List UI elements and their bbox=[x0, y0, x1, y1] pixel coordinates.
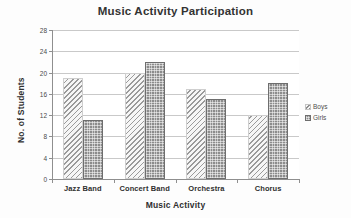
x-category-label: Concert Band bbox=[114, 184, 176, 193]
x-category-label: Orchestra bbox=[176, 184, 238, 193]
x-category-label: Chorus bbox=[237, 184, 299, 193]
x-axis-title: Music Activity bbox=[52, 200, 299, 210]
y-tick-label: 8 bbox=[43, 133, 47, 140]
bar-boys-chorus bbox=[248, 115, 268, 179]
chart-title: Music Activity Participation bbox=[0, 5, 351, 17]
x-tick-mark bbox=[299, 179, 300, 183]
legend-item-girls[interactable]: Girls bbox=[305, 112, 351, 123]
plot-area: 0481216202428 bbox=[52, 30, 299, 180]
x-axis-line bbox=[52, 179, 299, 180]
y-tick-label: 0 bbox=[43, 176, 47, 183]
y-tick-label: 12 bbox=[40, 112, 47, 119]
legend-label: Boys bbox=[313, 103, 327, 110]
bar-girls-chorus bbox=[268, 83, 288, 179]
x-category-label: Jazz Band bbox=[52, 184, 114, 193]
y-tick-label: 16 bbox=[40, 90, 47, 97]
chart-legend: BoysGirls bbox=[305, 101, 351, 123]
legend-swatch-girls-icon bbox=[305, 115, 311, 121]
bar-group bbox=[52, 30, 299, 179]
y-tick-label: 28 bbox=[40, 27, 47, 34]
y-tick-label: 20 bbox=[40, 69, 47, 76]
y-tick-label: 24 bbox=[40, 48, 47, 55]
y-axis-line bbox=[52, 30, 53, 180]
legend-label: Girls bbox=[313, 114, 326, 121]
y-tick-label: 4 bbox=[43, 154, 47, 161]
y-axis-title: No. of Students bbox=[14, 60, 28, 160]
legend-swatch-boys-icon bbox=[305, 104, 311, 110]
bars-layer bbox=[52, 30, 299, 180]
legend-item-boys[interactable]: Boys bbox=[305, 101, 351, 112]
chart-figure: Music Activity Participation No. of Stud… bbox=[0, 0, 351, 218]
